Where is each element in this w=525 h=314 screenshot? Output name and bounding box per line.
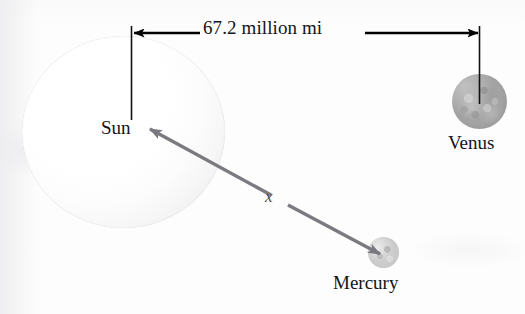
unknown-arrow-to-mercury [288, 205, 380, 254]
unknown-distance-label: x [265, 188, 273, 205]
unknown-arrow-to-sun [150, 129, 271, 195]
annotation-overlay [0, 0, 525, 314]
venus-label: Venus [448, 133, 494, 152]
mercury-label: Mercury [333, 273, 398, 292]
sun-label: Sun [101, 118, 131, 137]
figure-canvas: 67.2 million mi Sun Venus Mercury x [0, 0, 525, 314]
dimension-label: 67.2 million mi [203, 18, 322, 37]
